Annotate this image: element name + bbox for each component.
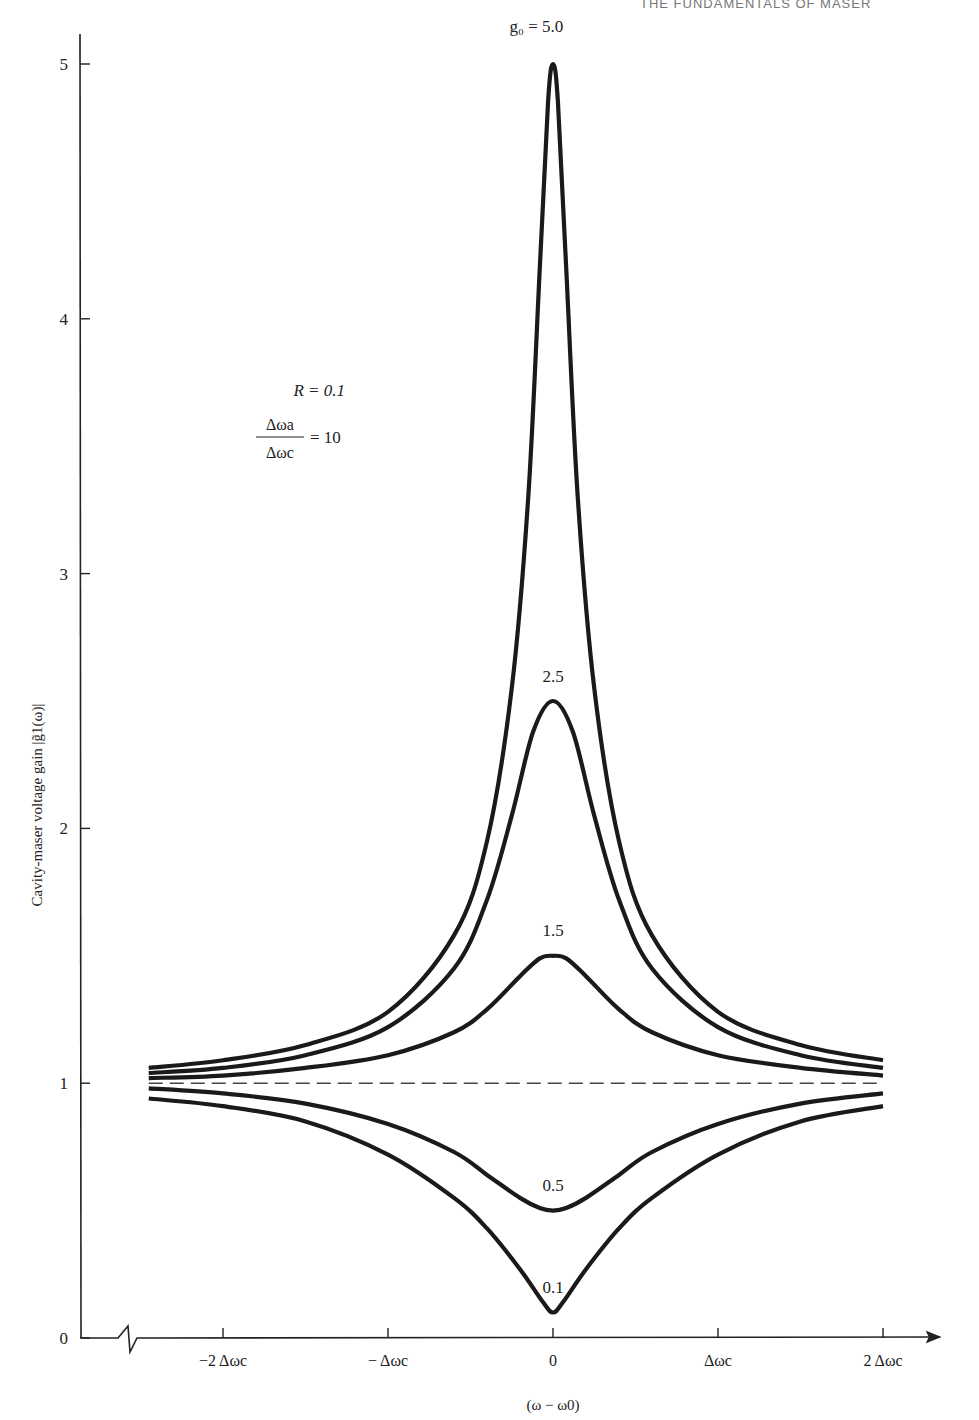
curve-label: 0.1: [542, 1278, 563, 1297]
gain-curves: [149, 64, 883, 1313]
x-tick-label: 2 Δωc: [863, 1352, 902, 1369]
param-ratio-denominator: Δωc: [266, 444, 294, 461]
y-axis-label: Cavity-maser voltage gain |g̃1(ω)|: [29, 704, 46, 907]
x-tick-label: − Δωc: [368, 1352, 408, 1369]
curve-labels: g₀ = 5.02.51.50.50.1: [510, 17, 564, 1297]
gain-curve: [149, 956, 883, 1078]
y-tick-label: 4: [60, 310, 69, 329]
x-axis-label: (ω − ω0): [526, 1397, 579, 1414]
x-tick-label: −2 Δωc: [199, 1352, 247, 1369]
param-ratio-numerator: Δωa: [266, 416, 294, 433]
y-tick-label: 2: [60, 819, 69, 838]
y-tick-label: 5: [60, 55, 69, 74]
x-tick-label: Δωc: [704, 1352, 732, 1369]
x-axis-ticks: −2 Δωc− Δωc0Δωc2 Δωc: [199, 1328, 903, 1369]
curve-label: g₀ = 5.0: [510, 17, 564, 36]
y-tick-label: 0: [60, 1329, 69, 1348]
gain-curve: [149, 701, 883, 1073]
y-axis-ticks: 012345: [60, 55, 91, 1348]
gain-curve: [149, 1088, 883, 1210]
y-tick-label: 1: [60, 1074, 69, 1093]
curve-label: 0.5: [542, 1176, 563, 1195]
gain-curve: [149, 1098, 883, 1312]
curve-label: 1.5: [542, 921, 563, 940]
x-tick-label: 0: [549, 1352, 557, 1369]
param-ratio-value: = 10: [310, 428, 341, 447]
x-axis-break: [81, 1326, 940, 1352]
y-tick-label: 3: [60, 565, 69, 584]
curve-label: 2.5: [542, 667, 563, 686]
gain-chart: 012345 −2 Δωc− Δωc0Δωc2 Δωc Cavity-maser…: [0, 0, 979, 1420]
y-axis: [80, 34, 81, 1338]
gain-curve: [149, 64, 883, 1068]
param-r: R = 0.1: [292, 381, 345, 400]
